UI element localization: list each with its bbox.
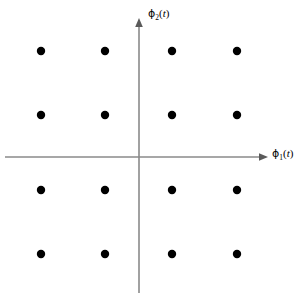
constellation-point — [37, 186, 45, 194]
phi1-axis — [5, 153, 268, 161]
constellation-point — [168, 186, 176, 194]
phi1-axis-arrowhead — [259, 153, 268, 161]
constellation-point — [233, 186, 241, 194]
phi1-axis-label: ϕ1(t) — [272, 148, 293, 162]
phi2-axis-arrowhead — [135, 18, 143, 27]
constellation-point — [101, 47, 109, 55]
phi2-close-paren: ) — [166, 7, 170, 19]
constellation-point — [101, 250, 109, 258]
constellation-point — [233, 111, 241, 119]
constellation-point — [168, 250, 176, 258]
phi1-close-paren: ) — [290, 147, 294, 159]
constellation-point — [233, 250, 241, 258]
constellation-point — [101, 111, 109, 119]
phi2-axis-label: ϕ2(t) — [148, 8, 169, 22]
constellation-diagram-figure: ϕ2(t) ϕ1(t) — [0, 0, 306, 301]
constellation-point — [37, 47, 45, 55]
phi2-axis — [135, 18, 143, 293]
constellation-point — [37, 250, 45, 258]
constellation-point — [37, 111, 45, 119]
constellation-point — [101, 186, 109, 194]
plot-canvas — [0, 0, 306, 301]
constellation-point — [233, 47, 241, 55]
constellation-point — [168, 47, 176, 55]
constellation-point — [168, 111, 176, 119]
